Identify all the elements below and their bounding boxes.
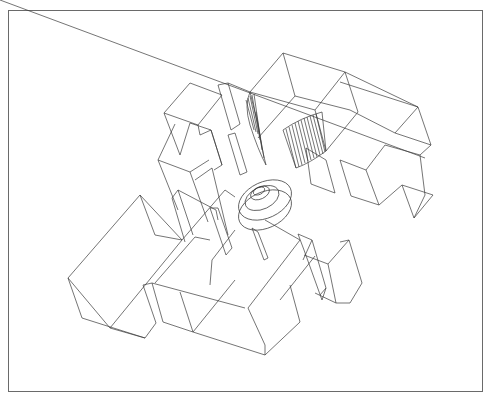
curved-hatched-wall — [247, 92, 335, 193]
top-left-volumes — [158, 83, 250, 222]
center-panels — [172, 168, 268, 260]
hatching — [246, 94, 325, 168]
bottom-left-volume — [68, 190, 300, 355]
top-right-volume — [0, 0, 433, 218]
ring-cylinder — [232, 172, 298, 238]
axonometric-drawing — [0, 0, 490, 404]
